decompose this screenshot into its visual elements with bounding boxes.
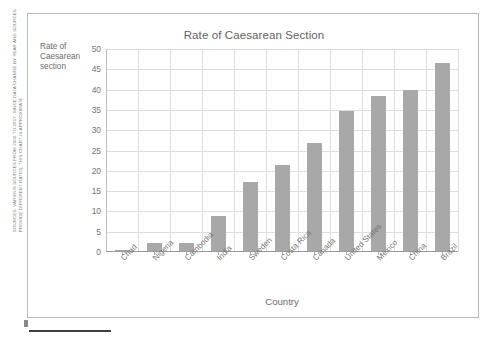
gridline-vertical	[458, 49, 459, 252]
source-note: SOURCES: VARIOUS SOURCES FROM 2000 TO 20…	[12, 4, 24, 232]
y-axis-tick-label: 20	[92, 166, 101, 176]
y-axis-line	[106, 49, 107, 252]
gridline-vertical	[330, 49, 331, 252]
gridline-vertical	[394, 49, 395, 252]
gridline-horizontal	[106, 69, 458, 70]
footer-marker	[24, 320, 28, 327]
chart-title: Rate of Caesarean Section	[28, 29, 480, 41]
gridline-vertical	[234, 49, 235, 252]
chart-card: Rate of Caesarean Section Rate of Caesar…	[27, 13, 479, 318]
x-axis-title: Country	[106, 296, 458, 307]
bar	[435, 63, 450, 251]
gridline-vertical	[202, 49, 203, 252]
y-axis-tick-label: 15	[92, 186, 101, 196]
bar	[339, 111, 354, 251]
y-axis-tick-label: 50	[92, 44, 101, 54]
plot-area: 05101520253035404550 ChadNigeriaCambodia…	[106, 49, 458, 252]
gridline-horizontal	[106, 49, 458, 50]
slide-canvas: SOURCES: VARIOUS SOURCES FROM 2000 TO 20…	[0, 0, 491, 341]
gridline-vertical	[138, 49, 139, 252]
bar	[275, 165, 290, 251]
y-axis-tick-label: 10	[92, 206, 101, 216]
bar	[243, 182, 258, 251]
gridline-vertical	[298, 49, 299, 252]
y-axis-tick-label: 0	[96, 247, 101, 257]
footer-rule	[29, 330, 111, 332]
y-axis-tick-label: 40	[92, 85, 101, 95]
y-axis-tick-label: 25	[92, 146, 101, 156]
gridline-vertical	[426, 49, 427, 252]
gridline-vertical	[266, 49, 267, 252]
gridline-vertical	[170, 49, 171, 252]
gridline-vertical	[362, 49, 363, 252]
bar	[403, 90, 418, 251]
y-axis-tick-label: 45	[92, 64, 101, 74]
y-axis-tick-label: 30	[92, 125, 101, 135]
y-axis-tick-label: 35	[92, 105, 101, 115]
y-axis-tick-label: 5	[96, 227, 101, 237]
